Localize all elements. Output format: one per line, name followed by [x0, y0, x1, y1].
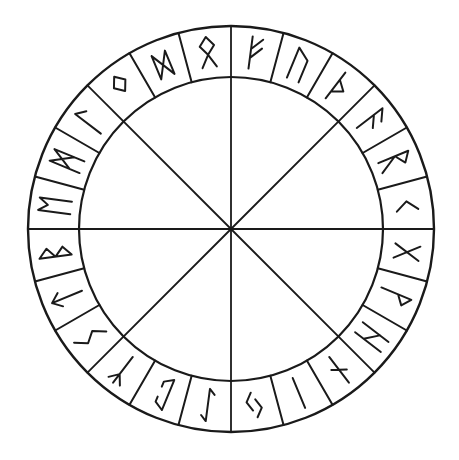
rune-ingwaz-icon: ᛜ ingwaz: [108, 72, 130, 95]
rune-stroke: [326, 73, 354, 105]
rune-stroke: [396, 200, 419, 212]
rune-algiz-icon: ᛉ algiz: [107, 353, 138, 387]
rune-tiwaz-icon: ᛏ tiwaz: [49, 284, 84, 310]
cell-divider: [55, 128, 99, 154]
cell-divider: [35, 268, 84, 281]
rune-laguz-icon: ᛚ laguz: [75, 107, 106, 134]
rune-thurisaz-icon: ᚦ thurisaz: [326, 73, 354, 105]
rune-isa-icon: ᛁ isa: [293, 378, 305, 408]
rune-stroke: [378, 287, 411, 308]
rune-stroke: [199, 36, 217, 68]
cell-divider: [378, 176, 427, 189]
rune-stroke: [357, 108, 389, 136]
rune-stroke: [154, 377, 175, 410]
cell-divider: [307, 53, 333, 97]
rune-stroke: [287, 48, 311, 83]
spoke-line: [231, 85, 375, 229]
rune-mannaz-icon: ᛗ mannaz: [50, 149, 85, 173]
cell-divider: [130, 361, 156, 405]
cell-divider: [178, 376, 191, 425]
rune-fehu-icon: ᚠ fehu: [248, 36, 263, 70]
rune-stroke: [248, 36, 263, 70]
rune-circle-diagram: Rune circle ᚠ fehuᚢ uruzᚦ thurisazᚨ ansu…: [0, 0, 459, 460]
rune-berkano-icon: ᛒ berkano: [38, 246, 71, 259]
rune-stroke: [293, 378, 305, 408]
spoke-line: [231, 229, 375, 373]
rune-stroke: [324, 353, 354, 386]
rune-gebo-icon: ᚷ gebo: [394, 243, 421, 261]
rune-uruz-icon: ᚢ uruz: [287, 48, 311, 83]
rune-stroke: [107, 353, 138, 387]
rune-stroke: [245, 392, 263, 419]
rune-stroke: [152, 51, 175, 80]
rune-stroke: [200, 388, 215, 422]
spoke-line: [87, 85, 231, 229]
rune-stroke: [394, 243, 421, 261]
rune-stroke: [75, 107, 106, 134]
rune-stroke: [108, 72, 130, 95]
spokes: [28, 26, 434, 432]
rune-kenaz-icon: ᚲ kenaz: [396, 200, 419, 212]
cell-divider: [270, 376, 283, 425]
rune-stroke: [74, 323, 106, 351]
rune-ehwaz-icon: ᛖ ehwaz: [38, 197, 72, 214]
rune-stroke: [378, 151, 412, 173]
rune-stroke: [38, 246, 71, 259]
rune-stroke: [355, 322, 388, 352]
cell-divider: [363, 128, 407, 154]
rune-naudhiz-icon: ᚾ naudhiz: [324, 353, 354, 386]
rune-circle-svg: ᚠ fehuᚢ uruzᚦ thurisazᚨ ansuzᚱ raidhoᚲ k…: [0, 0, 459, 460]
rune-jera-icon: ᛃ jera: [245, 392, 263, 419]
rune-stroke: [38, 197, 72, 214]
cell-divider: [178, 33, 191, 82]
rune-eihwaz-icon: ᛇ eihwaz: [200, 388, 215, 422]
rune-ansuz-icon: ᚨ ansuz: [357, 108, 389, 136]
cell-divider: [270, 33, 283, 82]
rune-sowilo-icon: ᛊ sowilo: [74, 323, 106, 351]
cell-divider: [35, 176, 84, 189]
rune-raidho-icon: ᚱ raidho: [378, 151, 412, 173]
spoke-line: [87, 229, 231, 373]
rune-wunjo-icon: ᚹ wunjo: [378, 287, 411, 308]
cell-divider: [55, 305, 99, 331]
rune-stroke: [49, 284, 84, 310]
rune-perthro-icon: ᛈ perthro: [154, 377, 175, 410]
rune-othala-icon: ᛟ othala: [199, 36, 217, 68]
rune-hagalaz-icon: ᚺ hagalaz: [355, 322, 388, 352]
rune-stroke: [50, 149, 85, 173]
cell-divider: [378, 268, 427, 281]
rune-dagaz-icon: ᛞ dagaz: [152, 51, 175, 80]
cell-divider: [307, 361, 333, 405]
cell-divider: [130, 53, 156, 97]
